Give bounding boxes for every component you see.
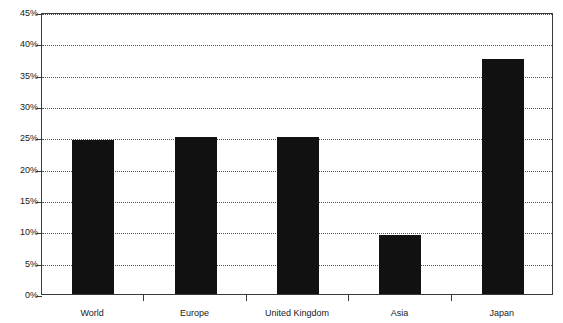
y-axis-tick [36,45,42,46]
x-axis-tick [348,295,349,301]
x-axis-tick [143,295,144,301]
y-axis-tick [36,139,42,140]
y-axis-tick-label: 10% [4,228,38,237]
x-axis-category-label: World [81,309,104,318]
gridline [42,139,552,140]
y-tick-group [42,14,552,294]
y-axis-tick-label: 5% [4,259,38,268]
y-axis-tick [36,296,42,297]
gridline [42,77,552,78]
y-axis-tick [36,202,42,203]
bar-chart: 0%5%10%15%20%25%30%35%40%45% WorldEurope… [0,0,563,323]
bar [72,140,114,294]
gridline [42,233,552,234]
x-axis-category-label: United Kingdom [265,309,329,318]
y-axis-tick [36,77,42,78]
bar [277,137,319,294]
plot-area [41,13,553,295]
x-axis-category-label: Asia [391,309,409,318]
y-axis-tick [36,14,42,15]
y-axis-tick [36,233,42,234]
gridline [42,45,552,46]
gridline [42,108,552,109]
y-axis-tick [36,108,42,109]
x-axis-category-label: Japan [490,309,515,318]
y-axis-tick-label: 25% [4,134,38,143]
x-axis-tick [246,295,247,301]
gridline [42,202,552,203]
y-axis-tick-label: 15% [4,197,38,206]
y-axis-tick [36,265,42,266]
y-axis-tick-label: 20% [4,165,38,174]
gridline [42,14,552,15]
bar [482,59,524,294]
y-axis-tick [36,171,42,172]
gridline-group [42,14,552,294]
y-axis-tick-label: 40% [4,40,38,49]
y-axis-tick-label: 45% [4,9,38,18]
y-axis-tick-label: 0% [4,291,38,300]
x-axis-tick [451,295,452,301]
gridline [42,171,552,172]
bar [175,137,217,294]
bar-group [42,14,552,294]
gridline [42,265,552,266]
y-axis-tick-label: 35% [4,71,38,80]
y-axis-tick-label: 30% [4,103,38,112]
x-axis-label-group: WorldEuropeUnited KingdomAsiaJapan [41,295,553,323]
x-tick-group [41,295,553,303]
bar [379,235,421,294]
x-axis-category-label: Europe [180,309,209,318]
y-axis-label-group: 0%5%10%15%20%25%30%35%40%45% [0,13,38,295]
